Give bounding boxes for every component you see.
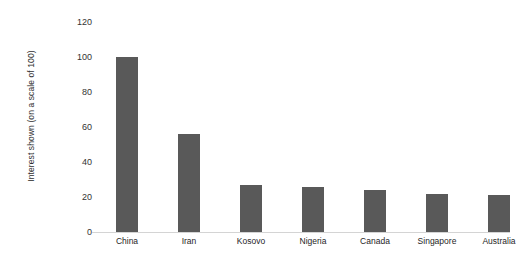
- bar-group: Canada: [344, 22, 406, 232]
- bar-group: Singapore: [406, 22, 468, 232]
- y-axis-tick-120: 120: [58, 18, 92, 27]
- y-axis-tick-0: 0: [58, 228, 92, 237]
- x-axis-label-canada: Canada: [344, 236, 406, 246]
- bar-group: Iran: [158, 22, 220, 232]
- x-axis-label-singapore: Singapore: [406, 236, 468, 246]
- bar-singapore[interactable]: [426, 194, 448, 233]
- bar-group: China: [96, 22, 158, 232]
- bar-canada[interactable]: [364, 190, 386, 232]
- x-axis-label-kosovo: Kosovo: [220, 236, 282, 246]
- bar-kosovo[interactable]: [240, 185, 262, 232]
- bar-group: Nigeria: [282, 22, 344, 232]
- x-axis-label-australia: Australia: [468, 236, 516, 246]
- y-axis-title: Interest shown (on a scale of 100): [24, 0, 38, 232]
- bar-group: Australia: [468, 22, 516, 232]
- x-axis-line: [92, 232, 510, 233]
- x-axis-label-iran: Iran: [158, 236, 220, 246]
- y-axis-tick-40: 40: [58, 158, 92, 167]
- y-axis-tick-60: 60: [58, 123, 92, 132]
- y-axis-tick-labels: 020406080100120: [54, 0, 92, 266]
- plot-area: ChinaIranKosovoNigeriaCanadaSingaporeAus…: [96, 22, 510, 232]
- bar-chart: Interest shown (on a scale of 100) 02040…: [0, 0, 516, 266]
- bar-australia[interactable]: [488, 195, 510, 232]
- bar-group: Kosovo: [220, 22, 282, 232]
- x-axis-label-china: China: [96, 236, 158, 246]
- y-axis-tick-80: 80: [58, 88, 92, 97]
- bar-iran[interactable]: [178, 134, 200, 232]
- y-axis-tick-20: 20: [58, 193, 92, 202]
- x-axis-label-nigeria: Nigeria: [282, 236, 344, 246]
- bar-nigeria[interactable]: [302, 187, 324, 233]
- y-axis-tick-100: 100: [58, 53, 92, 62]
- bar-china[interactable]: [116, 57, 138, 232]
